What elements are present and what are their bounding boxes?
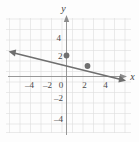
x-tick-label-zero: 0 — [59, 80, 64, 90]
x-tick-label-neg4: –4 — [24, 80, 35, 90]
point-y-intercept — [64, 53, 70, 59]
y-tick-label-neg4: –4 — [53, 114, 64, 124]
x-tick-label-4: 4 — [103, 80, 108, 90]
y-tick-label-4: 4 — [57, 33, 62, 43]
coordinate-plane-svg: –4 –2 0 2 4 4 2 –2 –4 y x — [0, 0, 139, 142]
y-tick-label-neg2: –2 — [53, 93, 63, 103]
x-tick-label-neg2: –2 — [42, 80, 52, 90]
y-axis-name-label: y — [60, 3, 66, 14]
point-second — [85, 63, 91, 69]
x-axis-name-label: x — [129, 71, 135, 82]
graph-figure: –4 –2 0 2 4 4 2 –2 –4 y x — [0, 0, 139, 142]
figure-background — [0, 0, 139, 142]
x-tick-label-2: 2 — [82, 80, 87, 90]
y-tick-label-2: 2 — [58, 51, 63, 61]
